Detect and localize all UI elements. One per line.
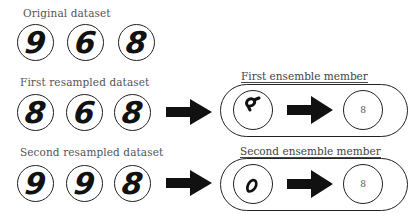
digit-glyph: 8: [124, 28, 148, 58]
digit-glyph: 9: [23, 169, 47, 199]
feature-circle: [233, 90, 273, 130]
right-arrow-icon: [287, 95, 333, 125]
digit-circle: 8: [17, 94, 54, 131]
digit-circle: 9: [17, 24, 54, 61]
digit-glyph: 8: [23, 98, 47, 128]
digit-circle: 8: [118, 24, 155, 61]
digit-glyph: 6: [72, 98, 96, 128]
digit-circle: 9: [17, 165, 54, 202]
digit-glyph: 6: [73, 28, 97, 58]
second-ensemble-member: 8: [220, 158, 408, 211]
first-ensemble-member-label: First ensemble member: [241, 70, 368, 83]
digit-glyph: 9: [23, 28, 47, 58]
digit-glyph: 9: [72, 169, 96, 199]
digit-circle: 6: [66, 94, 103, 131]
second-ensemble-member-label: Second ensemble member: [240, 145, 381, 158]
partial-digit-glyph-icon: [243, 176, 263, 196]
right-arrow-icon: [166, 169, 212, 197]
prediction-value: 8: [360, 105, 366, 115]
prediction-circle: 8: [343, 164, 383, 204]
partial-digit-glyph-icon: [243, 96, 263, 114]
right-arrow-icon: [166, 98, 212, 126]
digit-glyph: 8: [120, 98, 144, 128]
first-resampled-dataset-label: First resampled dataset: [20, 76, 149, 88]
digit-circle: 6: [67, 24, 104, 61]
prediction-value: 8: [360, 179, 366, 189]
second-resampled-dataset-label: Second resampled dataset: [20, 146, 163, 158]
right-arrow-icon: [287, 169, 333, 199]
digit-glyph: 8: [120, 169, 144, 199]
digit-circle: 9: [66, 165, 103, 202]
prediction-circle: 8: [343, 90, 383, 130]
feature-circle: [233, 164, 273, 204]
first-ensemble-member: 8: [220, 84, 408, 137]
original-dataset-label: Original dataset: [23, 7, 111, 19]
digit-circle: 8: [114, 165, 151, 202]
digit-circle: 8: [114, 94, 151, 131]
